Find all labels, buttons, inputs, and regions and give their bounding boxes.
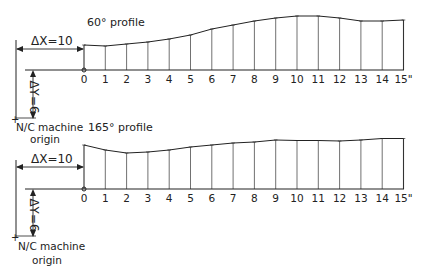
x-tick-label: 14 — [376, 73, 390, 85]
delta-y-label: ΔY=6 — [27, 198, 41, 231]
x-tick-label: 1 — [102, 73, 109, 85]
x-tick-label: 7 — [230, 73, 237, 85]
x-tick-label: 6 — [208, 192, 215, 204]
panel-60-profile: 60° profile 0123456789101112131415" ΔX=1… — [11, 16, 413, 133]
x-tick-labels: 0123456789101112131415" — [81, 192, 413, 204]
origin-label-line1: N/C machine — [16, 121, 83, 133]
x-tick-label: 2 — [123, 73, 130, 85]
panel-title: 165° profile — [88, 121, 153, 134]
delta-x-label: ΔX=10 — [31, 34, 73, 48]
x-tick-label: 0 — [81, 73, 88, 85]
x-tick-label: 11 — [312, 73, 325, 85]
x-tick-label: 15" — [394, 73, 412, 85]
origin-label-line2: origin — [30, 133, 60, 145]
delta-y-label: ΔY=6 — [27, 80, 41, 113]
x-tick-label: 8 — [251, 73, 258, 85]
x-tick-labels: 0123456789101112131415" — [81, 73, 413, 85]
x-tick-label: 12 — [333, 73, 346, 85]
x-tick-label: 12 — [333, 192, 346, 204]
profile-curve — [84, 139, 404, 154]
x-tick-label: 9 — [272, 73, 279, 85]
x-tick-label: 10 — [290, 73, 303, 85]
delta-x-label: ΔX=10 — [31, 152, 73, 166]
x-tick-label: 1 — [102, 192, 109, 204]
x-tick-label: 10 — [290, 192, 303, 204]
panel-title: 60° profile — [87, 16, 145, 29]
profile-2-lines — [82, 139, 405, 190]
x-tick-label: 8 — [251, 192, 258, 204]
x-tick-label: 15" — [394, 192, 412, 204]
profile-diagram: 60° profile 0123456789101112131415" ΔX=1… — [0, 0, 423, 270]
x-tick-label: 13 — [354, 192, 367, 204]
x-tick-label: 0 — [81, 192, 88, 204]
x-tick-label: 4 — [166, 73, 173, 85]
x-tick-label: 5 — [187, 192, 194, 204]
x-tick-label: 3 — [145, 73, 152, 85]
x-tick-label: 2 — [123, 192, 130, 204]
x-tick-label: 5 — [187, 73, 194, 85]
x-tick-label: 9 — [272, 192, 279, 204]
x-tick-label: 14 — [376, 192, 390, 204]
x-tick-label: 6 — [208, 73, 215, 85]
x-tick-label: 13 — [354, 73, 367, 85]
origin-label-line2: origin — [32, 254, 62, 266]
x-tick-label: 11 — [312, 192, 325, 204]
origin-label-line1: N/C machine — [18, 240, 85, 252]
x-tick-label: 4 — [166, 192, 173, 204]
x-tick-label: 3 — [145, 192, 152, 204]
panel-165-profile: 165° profile origin 01234567891011121314… — [11, 121, 413, 266]
x-tick-label: 7 — [230, 192, 237, 204]
